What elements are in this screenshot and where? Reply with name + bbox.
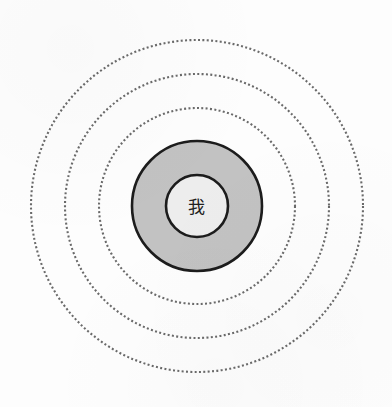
- diagram-canvas: 我: [0, 0, 392, 407]
- core-label: 我: [188, 197, 206, 217]
- concentric-circles-diagram: 我: [0, 0, 392, 407]
